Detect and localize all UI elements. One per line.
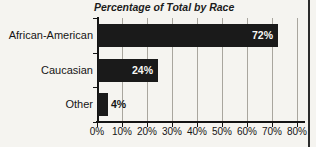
category-label-african-american: African-American — [9, 24, 93, 47]
x-axis-line — [96, 121, 305, 123]
x-tick-label-0: 0% — [90, 126, 104, 137]
gridline-80 — [297, 18, 298, 122]
x-tick-label-10: 10% — [112, 126, 132, 137]
value-axis-labels: 0%10%20%30%40%50%60%70%80% — [97, 126, 309, 140]
category-axis-labels: African-AmericanCaucasianOther — [0, 18, 94, 122]
y-tick-mark-0 — [93, 18, 97, 19]
y-tick-mark-3 — [93, 122, 97, 123]
page-border-right — [308, 0, 310, 147]
x-tick-label-30: 30% — [162, 126, 182, 137]
x-tick-label-20: 20% — [137, 126, 157, 137]
chart-title: Percentage of Total by Race — [94, 1, 234, 13]
x-tick-label-60: 60% — [237, 126, 257, 137]
plot-area: 72%24%4% — [97, 18, 309, 122]
scanned-page: Percentage of Total by Race African-Amer… — [0, 0, 316, 147]
category-label-other: Other — [65, 93, 93, 116]
bar-value-label-other: 4% — [111, 93, 126, 116]
category-label-caucasian: Caucasian — [41, 59, 93, 82]
x-tick-label-70: 70% — [262, 126, 282, 137]
bar-value-label-african-american: 72% — [252, 24, 273, 47]
bar-value-label-caucasian: 24% — [132, 59, 153, 82]
x-tick-label-80: 80% — [287, 126, 307, 137]
bar-other — [98, 93, 108, 116]
x-tick-label-50: 50% — [212, 126, 232, 137]
y-tick-mark-1 — [93, 53, 97, 54]
y-tick-mark-2 — [93, 87, 97, 88]
x-tick-label-40: 40% — [187, 126, 207, 137]
